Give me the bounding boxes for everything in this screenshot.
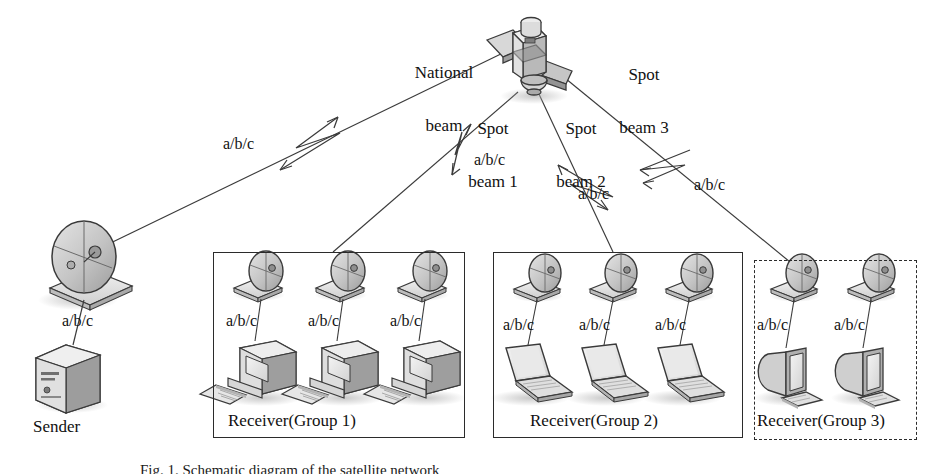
receiver-link-label: a/b/c	[834, 317, 865, 334]
receiver-link-label: a/b/c	[579, 317, 610, 334]
receiver-link-label: a/b/c	[503, 317, 534, 334]
satellite-dish-icon	[38, 221, 132, 310]
receiver-link-label: a/b/c	[655, 317, 686, 334]
figure-caption: Fig. 1. Schematic diagram of the satelli…	[140, 462, 840, 474]
beam-flow-label-spot1: a/b/c	[474, 152, 505, 169]
beam-label-spot2: Spot beam 2	[543, 84, 619, 227]
beam-label-national-line1: National	[389, 64, 499, 82]
receiver-link-label: a/b/c	[308, 313, 339, 330]
beam-label-spot1-line2: beam 1	[455, 173, 531, 191]
sender-link-label: a/b/c	[62, 313, 93, 330]
figure-canvas: National beam Spot beam 3 Spot beam 1 Sp…	[0, 0, 943, 474]
beam-label-spot1-line1: Spot	[455, 120, 531, 138]
beam-label-spot2-line1: Spot	[543, 120, 619, 138]
group-label-group3: Receiver(Group 3)	[757, 412, 885, 430]
flow-arrow-national	[280, 117, 340, 170]
group-label-group2: Receiver(Group 2)	[530, 412, 658, 430]
server-tower-icon	[36, 345, 108, 413]
beam-flow-label-spot2: a/b/c	[578, 186, 609, 203]
beam-flow-label-spot3: a/b/c	[694, 177, 725, 194]
receiver-link-label: a/b/c	[390, 313, 421, 330]
beam-label-spot3-line1: Spot	[596, 66, 692, 84]
receiver-link-label: a/b/c	[757, 317, 788, 334]
beam-flow-label-national: a/b/c	[223, 136, 254, 153]
group-label-group1: Receiver(Group 1)	[228, 412, 356, 430]
sender-label: Sender	[33, 418, 80, 436]
receiver-link-label: a/b/c	[226, 313, 257, 330]
